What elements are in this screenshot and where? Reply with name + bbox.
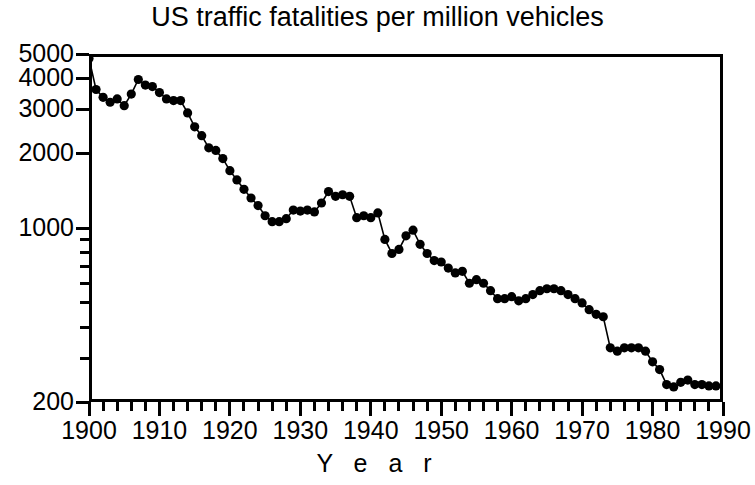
x-axis-tick-label: 1970 <box>554 416 610 444</box>
data-series-layer <box>89 54 723 402</box>
x-axis-tick-minor <box>116 402 119 411</box>
x-axis-tick-minor <box>242 402 245 411</box>
data-point <box>183 108 192 117</box>
data-point <box>225 166 234 175</box>
x-axis-tick-label: 1990 <box>695 416 751 444</box>
x-axis-tick-minor <box>468 402 471 411</box>
x-axis-tick-minor <box>538 402 541 411</box>
x-axis-tick-minor <box>482 402 485 411</box>
x-axis-tick-minor <box>172 402 175 411</box>
data-point <box>317 198 326 207</box>
y-axis-tick-minor <box>80 301 89 304</box>
x-axis-tick-major <box>369 402 372 416</box>
data-point <box>211 146 220 155</box>
x-axis-tick-major <box>440 402 443 416</box>
x-axis-tick-minor <box>454 402 457 411</box>
x-axis-tick-minor <box>637 402 640 411</box>
x-axis-tick-minor <box>200 402 203 411</box>
chart-figure: US traffic fatalities per million vehicl… <box>0 0 755 485</box>
x-axis-tick-minor <box>707 402 710 411</box>
x-axis-tick-minor <box>341 402 344 411</box>
x-axis-tick-major <box>158 402 161 416</box>
x-axis-tick-minor <box>567 402 570 411</box>
x-axis-tick-major <box>299 402 302 416</box>
x-axis-tick-minor <box>271 402 274 411</box>
data-point <box>113 94 122 103</box>
data-point <box>246 193 255 202</box>
x-axis-tick-label: 1920 <box>202 416 258 444</box>
data-point <box>155 88 164 97</box>
data-point <box>253 201 262 210</box>
x-axis-tick-minor <box>524 402 527 411</box>
x-axis-tick-label: 1950 <box>413 416 469 444</box>
x-axis-title: Y e a r <box>0 449 755 478</box>
data-point <box>148 82 157 91</box>
x-axis-tick-minor <box>679 402 682 411</box>
x-axis-tick-minor <box>102 402 105 411</box>
series-line <box>89 58 716 386</box>
y-axis-tick-minor <box>80 357 89 360</box>
y-axis-tick-major <box>76 53 89 56</box>
x-axis-tick-minor <box>397 402 400 411</box>
x-axis-tick-major <box>228 402 231 416</box>
x-axis-tick-label: 1940 <box>343 416 399 444</box>
x-axis-tick-minor <box>609 402 612 411</box>
x-axis-tick-minor <box>355 402 358 411</box>
y-axis-tick-label-text: 200 <box>2 389 74 414</box>
y-axis-tick-minor <box>80 326 89 329</box>
data-point <box>91 85 100 94</box>
x-axis-tick-minor <box>552 402 555 411</box>
x-axis-tick-major <box>88 402 91 416</box>
x-axis-tick-minor <box>144 402 147 411</box>
x-axis-tick-minor <box>257 402 260 411</box>
x-axis-tick-minor <box>623 402 626 411</box>
data-point <box>218 154 227 163</box>
data-point <box>232 175 241 184</box>
x-axis-tick-major <box>651 402 654 416</box>
x-axis-tick-major <box>722 402 725 416</box>
data-point <box>197 131 206 140</box>
x-axis-tick-minor <box>665 402 668 411</box>
data-point <box>423 249 432 258</box>
data-point <box>479 279 488 288</box>
data-point <box>310 207 319 216</box>
x-axis-tick-minor <box>186 402 189 411</box>
y-axis-tick-major <box>76 227 89 230</box>
data-point <box>373 208 382 217</box>
data-point <box>190 122 199 131</box>
data-point <box>648 357 657 366</box>
x-axis-tick-minor <box>327 402 330 411</box>
y-axis-tick-label-text: 2000 <box>2 140 74 165</box>
x-axis-tick-minor <box>285 402 288 411</box>
y-axis-tick-minor <box>80 282 89 285</box>
x-axis-tick-minor <box>130 402 133 411</box>
x-axis-tick-major <box>510 402 513 416</box>
x-axis-tick-label: 1980 <box>625 416 681 444</box>
x-axis-tick-label: 1960 <box>484 416 540 444</box>
y-axis-tick-major <box>76 152 89 155</box>
x-axis-tick-label: 1910 <box>132 416 188 444</box>
x-axis-tick-minor <box>313 402 316 411</box>
y-axis-tick-label-text: 3000 <box>2 96 74 121</box>
y-axis-tick-major <box>76 77 89 80</box>
chart-title: US traffic fatalities per million vehicl… <box>0 2 755 33</box>
y-axis-tick-label-text: 4000 <box>2 65 74 90</box>
data-point <box>380 235 389 244</box>
y-axis-tick-minor <box>80 251 89 254</box>
data-point <box>578 298 587 307</box>
x-axis-tick-major <box>581 402 584 416</box>
data-point <box>655 365 664 374</box>
y-axis-tick-minor <box>80 265 89 268</box>
data-point <box>261 211 270 220</box>
x-axis-tick-minor <box>426 402 429 411</box>
data-point <box>282 214 291 223</box>
x-axis-tick-minor <box>383 402 386 411</box>
x-axis-tick-label: 1930 <box>273 416 329 444</box>
data-point <box>711 381 720 390</box>
data-point <box>437 257 446 266</box>
x-axis-tick-label: 1900 <box>61 416 117 444</box>
data-point <box>641 347 650 356</box>
x-axis-tick-minor <box>693 402 696 411</box>
y-axis-tick-label-text: 1000 <box>2 215 74 240</box>
y-axis-tick-minor <box>80 238 89 241</box>
